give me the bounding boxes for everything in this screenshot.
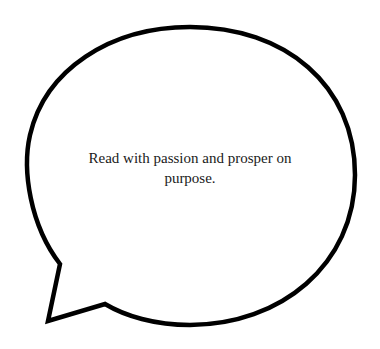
bubble-text-line1: Read with passion and prosper on bbox=[80, 148, 300, 168]
bubble-text-line2: purpose. bbox=[80, 168, 300, 188]
bubble-text: Read with passion and prosper on purpose… bbox=[80, 148, 300, 188]
